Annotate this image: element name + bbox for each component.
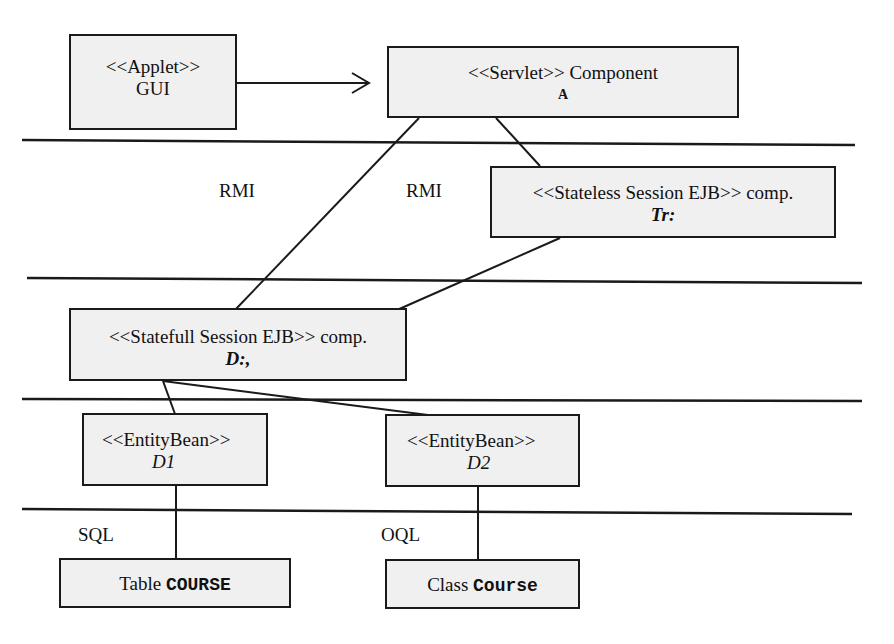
applet-stereotype: <<Applet>>: [71, 56, 235, 78]
entity-bean-1-node: <<EntityBean>> D1: [82, 413, 268, 486]
tier-separator-1: [22, 140, 855, 145]
rmi-label-left: RMI: [219, 180, 255, 202]
table-course-label: Table COURSE: [61, 573, 289, 596]
table-name: COURSE: [166, 575, 231, 595]
rmi-label-right: RMI: [406, 180, 442, 202]
tier-separator-4: [22, 509, 852, 514]
class-name: Course: [473, 576, 538, 596]
sql-label: SQL: [78, 524, 114, 546]
class-course-node: Class Course: [385, 559, 580, 609]
servlet-component-node: <<Servlet>> Component A: [387, 46, 739, 118]
class-prefix: Class: [427, 574, 468, 595]
tier-separator-2: [27, 278, 862, 283]
servlet-title: <<Servlet>> Component: [389, 62, 737, 84]
table-course-node: Table COURSE: [59, 558, 291, 608]
stateless-stereotype: <<Stateless Session EJB>>: [533, 182, 742, 203]
servlet-tag: A: [389, 84, 737, 106]
entity2-stereotype: <<EntityBean>>: [407, 430, 578, 452]
statefull-to-entity1-line: [163, 381, 175, 414]
servlet-stereotype: <<Servlet>>: [468, 62, 565, 83]
oql-label: OQL: [381, 524, 420, 546]
architecture-diagram: <<Applet>> GUI <<Servlet>> Component A <…: [0, 0, 894, 644]
statefull-to-entity2-line: [163, 381, 428, 415]
applet-name: GUI: [71, 78, 235, 100]
statefull-title: <<Statefull Session EJB>> comp.: [71, 326, 405, 348]
entity1-tag: D1: [102, 451, 266, 473]
entity-bean-2-node: <<EntityBean>> D2: [385, 414, 580, 487]
stateless-name: comp.: [746, 182, 793, 203]
servlet-name: Component: [569, 62, 658, 83]
stateless-title: <<Stateless Session EJB>> comp.: [492, 182, 834, 204]
applet-gui-node: <<Applet>> GUI: [69, 34, 237, 130]
table-prefix: Table: [119, 573, 161, 594]
class-course-label: Class Course: [387, 574, 578, 597]
statefull-tag: D:,: [71, 348, 405, 370]
stateless-tag: Tr:: [492, 204, 834, 226]
statefull-name: comp.: [320, 326, 367, 347]
stateless-session-ejb-node: <<Stateless Session EJB>> comp. Tr:: [490, 166, 836, 238]
entity1-stereotype: <<EntityBean>>: [102, 429, 266, 451]
tier-separator-3: [22, 399, 862, 401]
stateless-to-statefull-line: [397, 238, 560, 310]
entity2-tag: D2: [407, 452, 578, 474]
statefull-stereotype: <<Statefull Session EJB>>: [109, 326, 315, 347]
statefull-session-ejb-node: <<Statefull Session EJB>> comp. D:,: [69, 308, 407, 381]
